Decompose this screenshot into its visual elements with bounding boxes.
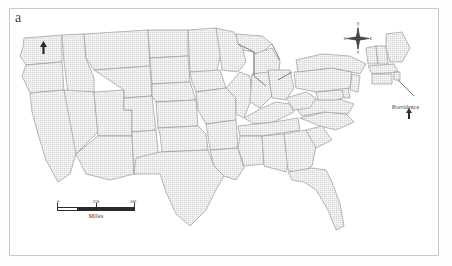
seattle-marker-arrow [39, 41, 48, 55]
providence-leader-line [398, 80, 414, 96]
scale-tick-2: 500 [130, 199, 137, 204]
compass-south-label: S [357, 51, 359, 54]
compass-north-label: N [357, 22, 360, 26]
scale-bar: 0 250 500 Miles [57, 199, 135, 219]
providence-label: Providence [392, 104, 419, 110]
scale-bar-graphic [57, 207, 135, 211]
scale-tick-0: 0 [57, 199, 59, 204]
scale-bar-ticks: 0 250 500 [57, 199, 135, 207]
scale-tick-1: 250 [93, 199, 100, 204]
compass-rose: N S E W [343, 22, 373, 54]
compass-west-label: W [344, 37, 348, 41]
compass-east-label: E [370, 37, 373, 41]
figure-panel: a [0, 0, 452, 266]
scale-bar-caption: Miles [57, 213, 135, 219]
